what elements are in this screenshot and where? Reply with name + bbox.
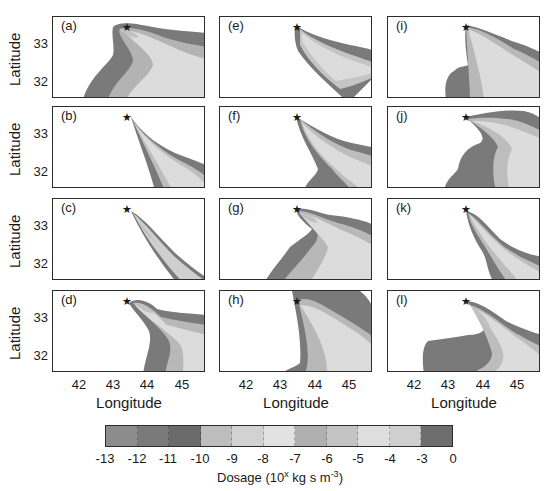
cbar-tick: -10 [188,451,212,466]
cbar-tick: -12 [125,451,149,466]
panel-label: (e) [228,18,244,33]
x-axis-label-col2: Longitude [219,394,373,411]
y-axis-label-row4: Latitude [6,307,23,360]
source-star-icon: ★ [461,203,471,216]
xtick-44: 44 [137,377,157,392]
panel-label: (d) [61,292,77,307]
source-star-icon: ★ [122,295,132,308]
source-star-icon: ★ [122,111,132,124]
y-axis-label-row3: Latitude [6,215,23,268]
ytick-33: 33 [24,126,48,141]
xtick-44: 44 [473,377,493,392]
colorbar-segment [169,426,201,446]
panel-b: (b) ★ [52,106,205,188]
panel-j: (j) ★ [387,106,540,188]
xtick-45: 45 [339,377,359,392]
y-axis-label-row1: Latitude [6,33,23,86]
panel-label: (j) [396,108,408,123]
panel-label: (k) [396,200,411,215]
ytick-33: 33 [24,36,48,51]
panel-label: (c) [61,200,76,215]
colorbar-segment [327,426,359,446]
xtick-42: 42 [69,377,89,392]
panel-label: (h) [228,292,244,307]
panel-g: (g) ★ [219,198,372,280]
source-star-icon: ★ [122,203,132,216]
panel-l: (l) ★ [387,290,540,372]
xtick-45: 45 [507,377,527,392]
panel-label: (a) [61,18,77,33]
panel-label: (l) [396,292,408,307]
cbar-tick: -3 [410,451,434,466]
panel-k: (k) ★ [387,198,540,280]
cbar-tick: -8 [251,451,275,466]
colorbar-title-units-exponent: -3 [331,469,339,479]
ytick-32: 32 [24,164,48,179]
y-axis-label-row2: Latitude [6,123,23,176]
panel-d: (d) ★ [52,290,205,372]
colorbar-segment [358,426,390,446]
source-star-icon: ★ [292,203,302,216]
panel-label: (f) [228,108,240,123]
source-star-icon: ★ [461,295,471,308]
xtick-43: 43 [103,377,123,392]
cbar-tick: 0 [441,451,465,466]
ytick-33: 33 [24,310,48,325]
xtick-43: 43 [438,377,458,392]
x-axis-label-col1: Longitude [52,394,206,411]
colorbar-title-units: kg s m [289,470,331,485]
cbar-tick: -4 [378,451,402,466]
xtick-44: 44 [305,377,325,392]
colorbar [105,425,453,447]
cbar-tick: -7 [283,451,307,466]
colorbar-segment [421,426,452,446]
cbar-tick: -5 [346,451,370,466]
colorbar-segment [201,426,233,446]
ytick-32: 32 [24,348,48,363]
colorbar-title-text: Dosage (10 [217,470,284,485]
cbar-tick: -13 [93,451,117,466]
colorbar-segment [232,426,264,446]
source-star-icon: ★ [292,295,302,308]
panel-f: (f) ★ [219,106,372,188]
panel-label: (i) [396,18,408,33]
cbar-tick: -6 [315,451,339,466]
source-star-icon: ★ [461,21,471,34]
panel-i: (i) ★ [387,16,540,98]
x-axis-label-col3: Longitude [387,394,541,411]
ytick-32: 32 [24,74,48,89]
colorbar-segment [138,426,170,446]
source-star-icon: ★ [122,21,132,34]
xtick-42: 42 [404,377,424,392]
panel-a: (a) ★ [52,16,205,98]
cbar-tick: -11 [156,451,180,466]
source-star-icon: ★ [292,21,302,34]
xtick-42: 42 [236,377,256,392]
cbar-tick: -9 [220,451,244,466]
source-star-icon: ★ [461,111,471,124]
colorbar-segment [295,426,327,446]
ytick-32: 32 [24,256,48,271]
panel-label: (b) [61,108,77,123]
panel-c: (c) ★ [52,198,205,280]
colorbar-segment [264,426,296,446]
colorbar-segment [106,426,138,446]
ytick-33: 33 [24,218,48,233]
panel-label: (g) [228,200,244,215]
colorbar-title: Dosage (10x kg s m-3) [180,469,380,485]
source-star-icon: ★ [292,111,302,124]
colorbar-segment [390,426,422,446]
xtick-45: 45 [172,377,192,392]
panel-e: (e) ★ [219,16,372,98]
panel-h: (h) ★ [219,290,372,372]
colorbar-title-close: ) [339,470,343,485]
xtick-43: 43 [270,377,290,392]
